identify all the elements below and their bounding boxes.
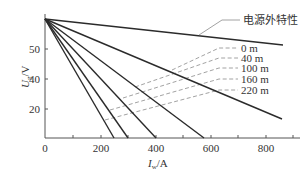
x-axis-label: Iw/A bbox=[147, 157, 168, 171]
distance-label: 220 m bbox=[241, 84, 269, 96]
source-leader bbox=[199, 20, 240, 35]
x-tick-label: 0 bbox=[42, 142, 48, 154]
leader-40m bbox=[135, 58, 238, 87]
x-tick-label: 800 bbox=[258, 142, 275, 154]
chart-svg: 0 200 400 600 800 50 40 20 Iw/A Ug/V bbox=[0, 0, 307, 180]
x-tick-label: 200 bbox=[93, 142, 110, 154]
y-tick-label: 50 bbox=[29, 43, 41, 55]
y-axis-label: Ug/V bbox=[19, 65, 33, 88]
leader-0m bbox=[172, 48, 238, 70]
distance-leaders bbox=[105, 48, 238, 120]
load-line-3 bbox=[45, 19, 156, 138]
x-tick-label: 600 bbox=[203, 142, 220, 154]
leader-160m bbox=[110, 79, 238, 110]
y-tick-label: 20 bbox=[29, 103, 41, 115]
source-curve-label: 电源外特性 bbox=[243, 13, 298, 27]
load-line-5 bbox=[45, 19, 114, 138]
chart: 0 200 400 600 800 50 40 20 Iw/A Ug/V bbox=[0, 0, 307, 180]
load-line-2 bbox=[45, 19, 204, 138]
x-tick-label: 400 bbox=[148, 142, 165, 154]
